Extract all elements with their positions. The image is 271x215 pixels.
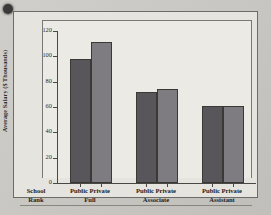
y-tick-label: 120 [42, 26, 52, 33]
x-group-rank: Assistant [189, 195, 255, 204]
plot-area [58, 31, 256, 183]
y-tick-label: 40 [46, 127, 52, 134]
x-group-rank: Full [57, 195, 123, 204]
x-axis-line [57, 183, 256, 184]
x-tick-mark [146, 183, 147, 187]
x-tick-mark [212, 183, 213, 187]
x-tick-mark [233, 183, 234, 187]
y-tick: 0 [57, 183, 58, 184]
x-group-sectors: Public Private [189, 186, 255, 195]
y-tick-mark [53, 183, 57, 184]
x-group-label-assistant: Public PrivateAssistant [189, 186, 255, 204]
y-tick-mark [53, 56, 57, 57]
chart-frame: Average Salary ($ Thousands) 02040608010… [13, 11, 258, 198]
y-tick-label: 100 [42, 51, 52, 58]
y-tick-mark [53, 107, 57, 108]
y-tick-label: 0 [49, 178, 52, 185]
x-group-label-associate: Public PrivateAssociate [123, 186, 189, 204]
bar-associate-public [136, 92, 157, 183]
row-header-line2: Rank [16, 195, 56, 204]
x-tick-mark [80, 183, 81, 187]
y-tick-label: 20 [46, 153, 52, 160]
y-axis-title: Average Salary ($ Thousands) [0, 12, 12, 170]
bar-assistant-private [223, 106, 244, 183]
row-header-line1: School [16, 186, 56, 195]
y-tick-mark [53, 158, 57, 159]
y-tick-mark [53, 82, 57, 83]
bar-full-private [91, 42, 112, 183]
x-group-label-full: Public PrivateFull [57, 186, 123, 204]
y-tick-label: 60 [46, 102, 52, 109]
bar-assistant-public [202, 106, 223, 183]
x-axis-labels: SchoolRankPublic PrivateFullPublic Priva… [14, 186, 259, 212]
y-tick-label: 80 [46, 77, 52, 84]
x-group-sectors: Public Private [57, 186, 123, 195]
x-group-rank: Associate [123, 195, 189, 204]
bottom-divider [20, 205, 252, 206]
x-tick-mark [101, 183, 102, 187]
x-tick-mark [167, 183, 168, 187]
y-tick-mark [53, 31, 57, 32]
page-background: Average Salary ($ Thousands) 02040608010… [0, 0, 271, 215]
x-axis-row-header: SchoolRank [16, 186, 56, 204]
bar-associate-private [157, 89, 178, 183]
x-group-sectors: Public Private [123, 186, 189, 195]
y-tick-mark [53, 132, 57, 133]
bar-full-public [70, 59, 91, 183]
